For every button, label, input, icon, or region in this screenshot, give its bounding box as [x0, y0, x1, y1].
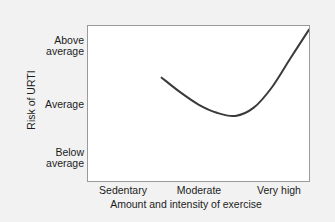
x-axis-title: Amount and intensity of exercise	[110, 198, 262, 210]
y-axis-tick-average: Average	[6, 99, 84, 110]
y-axis-tick-below-average: Below average	[6, 147, 84, 169]
figure: Risk of URTI Above average Average Below…	[0, 0, 335, 222]
plot-area	[87, 25, 310, 182]
x-axis-tick-moderate: Moderate	[177, 184, 221, 196]
x-axis-tick-sedentary: Sedentary	[99, 184, 147, 196]
x-axis-tick-very-high: Very high	[257, 184, 301, 196]
y-axis-tick-above-average: Above average	[6, 35, 84, 57]
j-curve-line	[88, 26, 309, 181]
